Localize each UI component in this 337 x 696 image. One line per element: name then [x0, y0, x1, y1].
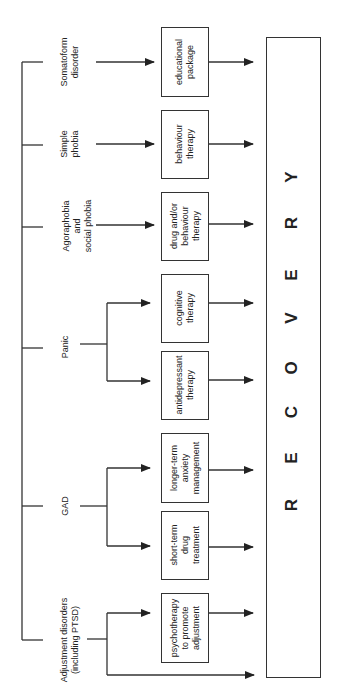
- box-educational-package-text: educational package: [174, 39, 196, 85]
- box-psychotherapy-text: psychotherapy to promote adjustment: [169, 599, 202, 658]
- box-antidepressant-therapy-text: antidepressant therapy: [174, 355, 196, 414]
- recovery-letter-v: V: [282, 312, 302, 323]
- recovery-box: [266, 37, 321, 678]
- box-drug-behaviour-therapy-text: drug and/or behaviour therapy: [169, 203, 202, 249]
- label-simple-phobia: Simple phobia: [59, 130, 81, 158]
- label-somatoform: Somatoform disorder: [59, 37, 81, 86]
- recovery-letter-r2: R: [282, 217, 302, 229]
- box-behaviour-therapy-text: behaviour therapy: [174, 124, 196, 164]
- recovery-letter-e1: E: [282, 452, 302, 463]
- recovery-letter-c: C: [282, 406, 302, 418]
- recovery-letter-e2: E: [282, 269, 302, 280]
- label-panic: Panic: [60, 336, 71, 359]
- label-agoraphobia: Agoraphobia and social phobia: [61, 200, 94, 253]
- recovery-letter-y: Y: [282, 171, 302, 182]
- box-longer-term-anxiety-text: longer-term anxiety management: [169, 442, 202, 495]
- recovery-letter-o: O: [282, 361, 302, 374]
- box-short-term-drug-text: short-term drug treatment: [169, 524, 202, 565]
- label-gad: GAD: [60, 496, 71, 516]
- recovery-letter-r1: R: [282, 499, 302, 511]
- box-cognitive-therapy-text: cognitive therapy: [174, 290, 196, 326]
- label-adjustment: Adjustment disorders (including PTSD): [59, 598, 81, 683]
